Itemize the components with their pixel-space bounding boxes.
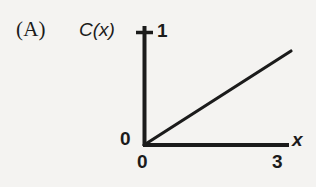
figure-panel-a: (A) C(x) x 1 0 0 3 (0, 0, 316, 187)
panel-label: (A) (16, 19, 46, 40)
y-axis-tick-label-1: 1 (157, 21, 168, 40)
x-axis-tick-label-0: 0 (137, 152, 148, 171)
x-axis-tick-label-3: 3 (272, 152, 283, 171)
y-axis-label: C(x) (79, 20, 115, 39)
y-axis-tick-label-0: 0 (120, 129, 131, 148)
x-axis-label: x (292, 130, 303, 149)
data-line-ramp (144, 51, 291, 145)
